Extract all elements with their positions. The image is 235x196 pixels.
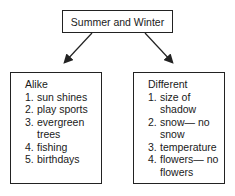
title-box: Summer and Winter	[62, 10, 173, 33]
different-heading: Different	[148, 78, 224, 91]
list-item: 2.snow— no snow	[148, 116, 224, 141]
arrow-right	[145, 33, 172, 62]
list-item: 3.temperature	[148, 141, 224, 154]
list-item: 4.fishing	[25, 141, 101, 154]
list-item: 4.flowers— no flowers	[148, 153, 224, 178]
list-item: 3.evergreen trees	[25, 116, 101, 141]
list-item: 1.sun shines	[25, 91, 101, 104]
arrow-left	[65, 33, 92, 62]
different-box: Different 1.size of shadow 2.snow— no sn…	[133, 72, 225, 184]
list-item: 1.size of shadow	[148, 91, 224, 116]
title: Summer and Winter	[71, 16, 164, 28]
alike-heading: Alike	[25, 78, 101, 91]
alike-box: Alike 1.sun shines 2.play sports 3.everg…	[10, 72, 102, 184]
list-item: 5.birthdays	[25, 153, 101, 166]
list-item: 2.play sports	[25, 103, 101, 116]
